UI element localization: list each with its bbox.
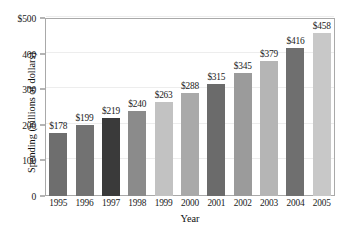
chart-title (0, 0, 347, 4)
x-tick-label: 2003 (260, 198, 278, 208)
x-tick-label: 1998 (128, 198, 146, 208)
x-tick-label: 2005 (313, 198, 331, 208)
y-tick-mark (40, 124, 45, 125)
plot-area (45, 18, 335, 196)
gridline (46, 158, 334, 159)
x-tick-label: 2000 (181, 198, 199, 208)
x-axis-title: Year (45, 213, 335, 224)
y-axis: 0100200300400$500 (0, 18, 45, 196)
x-tick-label: 1997 (102, 198, 120, 208)
x-tick-label: 2004 (286, 198, 304, 208)
gridline (46, 87, 334, 88)
y-axis-title: Spending (billions of dollars) (26, 29, 37, 197)
gridline (46, 52, 334, 53)
gridline (46, 123, 334, 124)
gridline (46, 16, 334, 17)
y-tick-mark (40, 89, 45, 90)
x-axis: 1995199619971998199920002001200220032004… (45, 198, 335, 212)
y-tick-mark (40, 53, 45, 54)
y-tick-mark (40, 196, 45, 197)
chart-page: 0100200300400$500 Spending (billions of … (0, 0, 347, 232)
x-tick-label: 2001 (207, 198, 225, 208)
x-tick-label: 1996 (76, 198, 94, 208)
x-tick-label: 1999 (155, 198, 173, 208)
x-tick-label: 2002 (234, 198, 252, 208)
y-tick-mark (40, 160, 45, 161)
y-tick-mark (40, 18, 45, 19)
x-tick-label: 1995 (49, 198, 67, 208)
y-tick-label: $500 (18, 13, 36, 24)
